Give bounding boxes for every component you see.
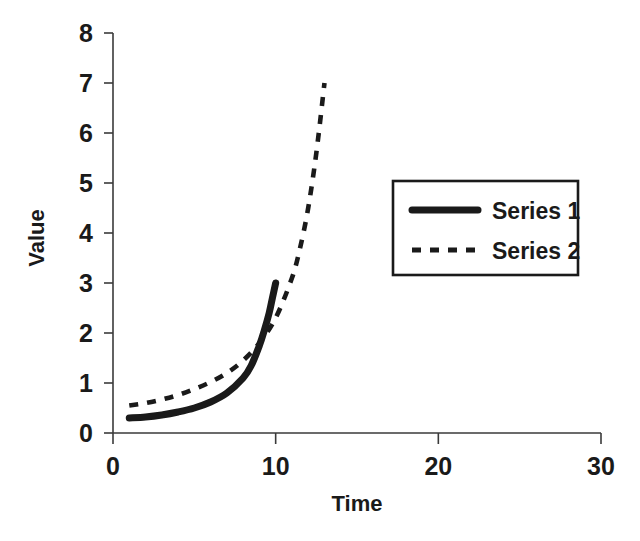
y-tick-label: 6	[79, 119, 93, 147]
y-tick-label: 7	[79, 69, 93, 97]
series-2-line	[129, 83, 324, 406]
line-chart: 012345678 0102030 Value Time Series 1 Se…	[0, 0, 640, 541]
y-axis-ticks	[104, 33, 113, 433]
y-tick-label: 8	[79, 19, 93, 47]
y-tick-label: 1	[79, 369, 93, 397]
x-tick-label: 0	[106, 452, 120, 480]
x-tick-label: 30	[587, 452, 615, 480]
x-axis-ticks	[113, 433, 601, 444]
y-tick-label: 5	[79, 169, 93, 197]
x-axis-title: Time	[332, 491, 383, 516]
chart-legend: Series 1 Series 2	[393, 181, 580, 275]
y-axis-tick-labels: 012345678	[79, 19, 93, 447]
y-axis-title: Value	[24, 209, 49, 266]
y-tick-label: 4	[79, 219, 93, 247]
series-1-line	[129, 283, 275, 418]
x-tick-label: 10	[262, 452, 290, 480]
y-tick-label: 0	[79, 419, 93, 447]
chart-container: 012345678 0102030 Value Time Series 1 Se…	[0, 0, 640, 541]
y-tick-label: 3	[79, 269, 93, 297]
legend-label-series-1: Series 1	[492, 198, 580, 224]
x-tick-label: 20	[424, 452, 452, 480]
x-axis-tick-labels: 0102030	[106, 452, 615, 480]
legend-label-series-2: Series 2	[492, 238, 580, 264]
y-tick-label: 2	[79, 319, 93, 347]
